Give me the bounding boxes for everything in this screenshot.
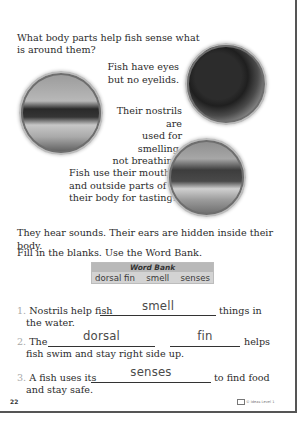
- item-3-before: A fish uses its: [29, 372, 96, 383]
- fish-eye-photo: [185, 43, 267, 125]
- caption-eyes-line-2: but no eyelids.: [100, 74, 179, 87]
- word-senses: senses: [181, 272, 210, 284]
- caption-nostrils-line-1: Their nostrils are: [98, 105, 182, 130]
- caption-mouth: Fish use their mouth and outside parts o…: [69, 167, 176, 205]
- item-2-before: The: [29, 336, 47, 347]
- item-2-number: 2.: [17, 336, 26, 347]
- item-3-answer[interactable]: senses: [91, 364, 211, 379]
- instructions: Fill in the blanks. Use the Word Bank.: [17, 247, 202, 260]
- item-2-blank-2[interactable]: [170, 346, 240, 347]
- item-1-answer[interactable]: smell: [100, 298, 216, 313]
- caption-eyes-line-1: Fish have eyes: [100, 61, 179, 74]
- caption-mouth-line-1: Fish use their mouth: [69, 167, 176, 180]
- question-line-2: is around them?: [17, 44, 96, 57]
- word-smell: smell: [146, 272, 169, 284]
- item-1-number: 1.: [17, 305, 26, 316]
- caption-nostrils: Their nostrils are used for smelling, no…: [98, 105, 182, 168]
- page-number: 22: [10, 398, 18, 405]
- word-bank-title: Word Bank: [92, 263, 213, 272]
- item-2-after: helps: [244, 336, 270, 349]
- copyright-text: © Ideas Level 1: [246, 400, 274, 404]
- fish-mouth-photo: [167, 138, 246, 217]
- worksheet-page: What body parts help fish sense what is …: [0, 0, 297, 413]
- caption-eyes: Fish have eyes but no eyelids.: [100, 61, 179, 86]
- word-bank: Word Bank dorsal fin smell senses: [91, 262, 214, 284]
- item-2-blank-1[interactable]: [48, 346, 155, 347]
- publisher-logo-icon: [237, 399, 245, 405]
- item-3-number: 3.: [17, 372, 26, 383]
- copyright: © Ideas Level 1: [236, 399, 274, 405]
- fish-nostrils-photo: [19, 71, 103, 155]
- item-1: 1. Nostrils help fish: [17, 305, 112, 318]
- item-1-blank[interactable]: [100, 315, 216, 316]
- item-2: 2. The: [17, 336, 47, 349]
- item-2-line-2: fish swim and stay right side up.: [26, 348, 184, 361]
- item-2-answer-1[interactable]: dorsal: [48, 328, 155, 343]
- caption-nostrils-line-2: used for smelling,: [98, 130, 182, 155]
- item-1-after: things in: [219, 305, 262, 318]
- item-3-after: to find food: [214, 372, 270, 385]
- caption-mouth-line-2: and outside parts of: [69, 180, 176, 193]
- caption-mouth-line-3: their body for tasting.: [69, 192, 176, 205]
- question-line-1: What body parts help fish sense what: [17, 32, 200, 45]
- word-dorsal-fin: dorsal fin: [95, 272, 135, 284]
- word-bank-words: dorsal fin smell senses: [92, 272, 213, 284]
- item-3-blank[interactable]: [91, 382, 211, 383]
- item-3: 3. A fish uses its: [17, 372, 96, 385]
- item-2-answer-2[interactable]: fin: [170, 328, 240, 343]
- item-3-line-2: and stay safe.: [26, 384, 93, 397]
